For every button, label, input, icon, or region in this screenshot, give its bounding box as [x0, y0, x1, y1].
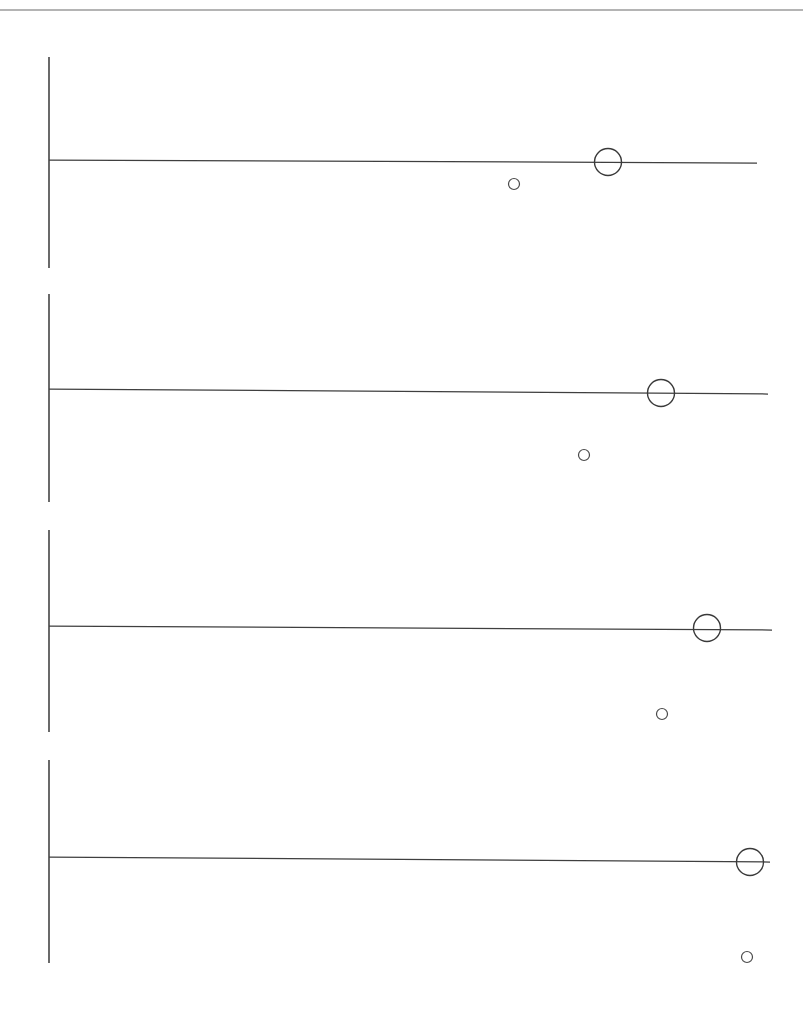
- panel-4-hit-area[interactable]: [0, 746, 803, 994]
- panel-2[interactable]: [0, 276, 803, 514]
- panel-1[interactable]: [0, 20, 803, 275]
- panel-1-hit-area[interactable]: [0, 20, 803, 275]
- panel-2-hit-area[interactable]: [0, 276, 803, 514]
- panel-4[interactable]: [0, 746, 803, 994]
- figure-canvas: [0, 0, 803, 1020]
- figure-page: [0, 0, 803, 1020]
- panel-3[interactable]: [0, 516, 803, 744]
